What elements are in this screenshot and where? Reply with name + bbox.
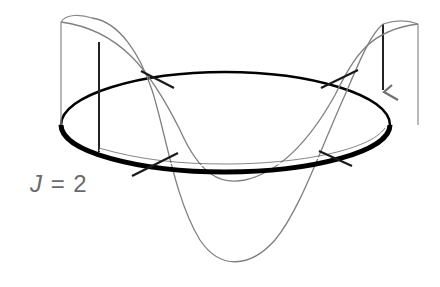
- wave-negative: [92, 18, 383, 262]
- label-equals: =: [51, 170, 66, 197]
- ring-front: [61, 125, 390, 172]
- cap-right: [383, 21, 418, 24]
- label-variable: J: [30, 170, 43, 197]
- quantum-number-label: J = 2: [30, 170, 88, 198]
- ring-wave-diagram: [0, 0, 440, 287]
- ring-back: [61, 72, 390, 125]
- direction-arrow-icon: [384, 85, 398, 100]
- label-value: 2: [73, 170, 87, 197]
- cap-left: [61, 15, 92, 22]
